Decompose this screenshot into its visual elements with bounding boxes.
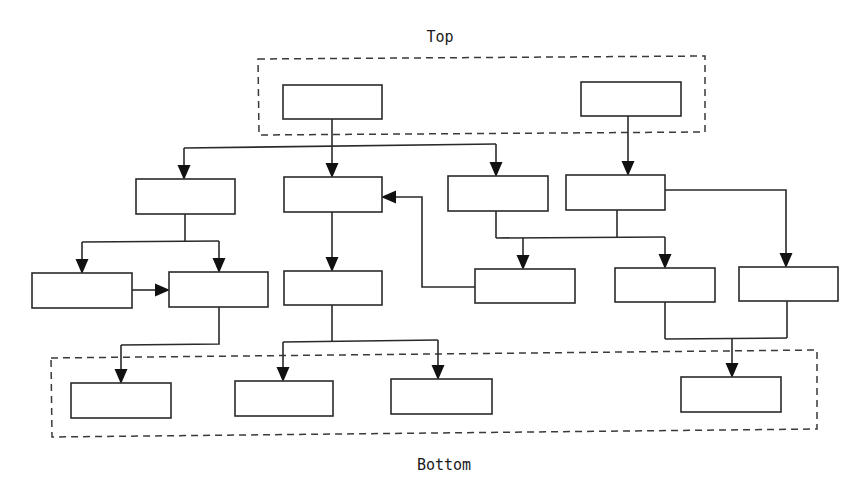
node-m <box>391 379 492 414</box>
node-b <box>284 177 382 212</box>
arrowhead-icon <box>659 254 672 269</box>
edge-cd-branch <box>496 237 665 238</box>
node-h <box>475 269 575 303</box>
arrowhead-icon <box>76 259 89 274</box>
node-l <box>235 381 333 416</box>
arrowhead-icon <box>490 162 503 177</box>
node-n <box>681 377 781 412</box>
edge-g-branch <box>283 340 438 342</box>
arrowhead-icon <box>115 369 128 384</box>
node-top-2 <box>581 82 681 116</box>
node-k <box>71 383 171 418</box>
arrowhead-icon <box>622 161 635 176</box>
arrowhead-icon <box>213 258 226 273</box>
connector-edges <box>76 116 793 384</box>
flowchart-diagram: Top Bottom <box>0 0 867 499</box>
node-f <box>169 272 268 307</box>
arrowhead-icon <box>381 191 396 204</box>
edge-f-stem <box>121 307 219 345</box>
arrowhead-icon <box>726 363 739 378</box>
arrowhead-icon <box>326 257 339 272</box>
arrowhead-icon <box>326 163 339 178</box>
arrowhead-icon <box>432 365 445 380</box>
arrowhead-icon <box>517 255 530 270</box>
node-a <box>136 179 235 214</box>
node-d <box>566 175 665 210</box>
node-top-1 <box>283 85 382 119</box>
bottom-label: Bottom <box>417 456 471 474</box>
node-e <box>32 273 132 308</box>
top-label: Top <box>426 28 453 46</box>
arrowhead-icon <box>178 165 191 180</box>
node-j <box>739 267 838 301</box>
arrowhead-icon <box>155 284 170 297</box>
edge-d-to-j <box>665 190 786 253</box>
arrowhead-icon <box>780 253 793 268</box>
node-c <box>448 176 548 211</box>
edge-top1-branch <box>184 144 496 148</box>
edge-ij-branch <box>665 338 787 339</box>
node-i <box>615 268 715 302</box>
node-g <box>284 271 382 305</box>
arrowhead-icon <box>277 367 290 382</box>
edge-a-branch <box>82 241 219 242</box>
